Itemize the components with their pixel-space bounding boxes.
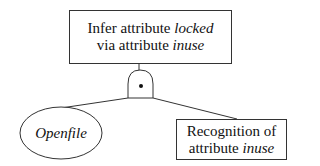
gate-to-recognition-line <box>153 98 237 119</box>
and-gate-dot-icon <box>139 84 143 88</box>
recognition-italic-text: inuse <box>243 140 275 156</box>
openfile-node: Openfile <box>20 107 102 159</box>
recognition-line-2: attribute inuse <box>189 140 274 157</box>
recognition-node: Recognition of attribute inuse <box>176 119 287 160</box>
root-italic-text: inuse <box>173 37 205 53</box>
openfile-label: Openfile <box>35 125 87 142</box>
recognition-line-1: Recognition of <box>187 123 277 140</box>
root-line-2: via attribute inuse <box>97 37 204 54</box>
root-line-1: Infer attribute locked <box>88 20 214 37</box>
root-goal-node: Infer attribute locked via attribute inu… <box>69 10 232 64</box>
recognition-text: attribute <box>189 140 243 156</box>
and-gate-icon <box>128 70 153 98</box>
root-text: via attribute <box>97 37 173 53</box>
root-italic-text: locked <box>174 20 213 36</box>
root-text: Infer attribute <box>88 20 175 36</box>
